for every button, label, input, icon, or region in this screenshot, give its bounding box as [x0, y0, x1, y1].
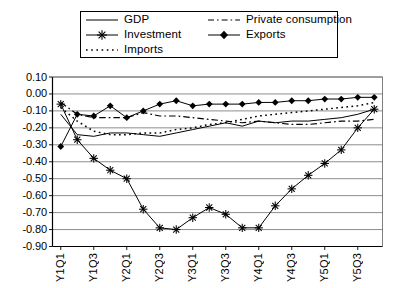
x-axis-tick-label: Y1Q1: [55, 253, 66, 282]
x-axis-tick-label: Y3Q3: [220, 253, 231, 282]
y-axis-tick-label: 0.00: [5, 88, 47, 99]
x-axis-tick-label: Y1Q3: [88, 253, 99, 282]
y-axis-tick-label: -0.80: [5, 224, 47, 235]
x-axis-tick-label: Y2Q3: [154, 253, 165, 282]
x-axis-tick-label: Y5Q1: [319, 253, 330, 282]
chart-plot-area: 0.100.00-0.10-0.20-0.30-0.40-0.50-0.60-0…: [0, 0, 398, 288]
y-axis-tick-label: -0.60: [5, 190, 47, 201]
chart-figure: GDP Investment: [0, 0, 398, 288]
x-axis-tick-label: Y4Q1: [253, 253, 264, 282]
x-axis-tick-label: Y3Q1: [187, 253, 198, 282]
x-axis-tick-label: Y4Q3: [286, 253, 297, 282]
y-axis-tick-label: -0.50: [5, 173, 47, 184]
y-axis-tick-label: -0.40: [5, 156, 47, 167]
y-axis-tick-label: -0.20: [5, 122, 47, 133]
chart-tick-marks: [49, 77, 358, 250]
chart-canvas: [0, 0, 398, 288]
y-axis-tick-label: -0.30: [5, 139, 47, 150]
y-axis-tick-label: -0.90: [5, 241, 47, 252]
x-axis-tick-label: Y5Q3: [352, 253, 363, 282]
x-axis-tick-label: Y2Q1: [121, 253, 132, 282]
y-axis-tick-label: -0.70: [5, 207, 47, 218]
y-axis-tick-label: 0.10: [5, 72, 47, 83]
chart-gridlines: [53, 77, 383, 247]
y-axis-tick-label: -0.10: [5, 105, 47, 116]
